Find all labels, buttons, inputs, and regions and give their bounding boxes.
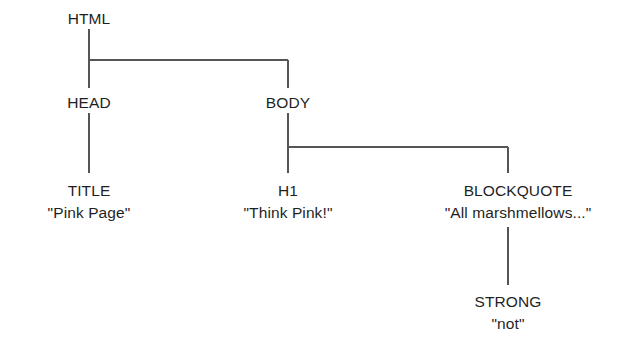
- tree-connector-lines: [0, 0, 643, 341]
- tree-node-head[interactable]: HEAD: [67, 92, 110, 114]
- tree-node-h1-tag: H1: [244, 180, 333, 202]
- dom-tree-diagram: HTML HEAD BODY TITLE "Pink Page" H1 "Thi…: [0, 0, 643, 341]
- tree-node-head-tag: HEAD: [67, 92, 110, 114]
- tree-node-title-text: "Pink Page": [48, 202, 131, 224]
- tree-node-blockquote[interactable]: BLOCKQUOTE "All marshmellows...": [445, 180, 592, 224]
- tree-node-blockquote-tag: BLOCKQUOTE: [445, 180, 592, 202]
- tree-node-blockquote-text: "All marshmellows...": [445, 202, 592, 224]
- tree-node-strong-tag: STRONG: [475, 291, 542, 313]
- tree-node-strong-text: "not": [475, 313, 542, 335]
- tree-node-body-tag: BODY: [266, 92, 310, 114]
- tree-node-h1-text: "Think Pink!": [244, 202, 333, 224]
- tree-node-title[interactable]: TITLE "Pink Page": [48, 180, 131, 224]
- tree-node-html[interactable]: HTML: [68, 8, 111, 30]
- tree-node-h1[interactable]: H1 "Think Pink!": [244, 180, 333, 224]
- tree-node-html-tag: HTML: [68, 8, 111, 30]
- tree-node-strong[interactable]: STRONG "not": [475, 291, 542, 335]
- tree-node-body[interactable]: BODY: [266, 92, 310, 114]
- tree-node-title-tag: TITLE: [48, 180, 131, 202]
